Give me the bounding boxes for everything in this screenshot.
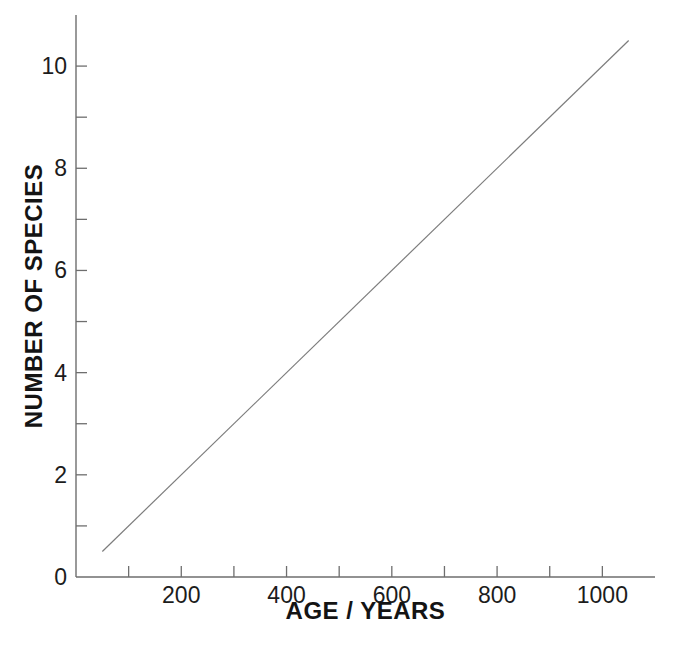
- y-tick-label-4: 4: [54, 360, 67, 386]
- y-tick-label-8: 8: [54, 155, 67, 181]
- y-tick-label-2: 2: [54, 462, 67, 488]
- y-tick-label-0: 0: [54, 564, 67, 590]
- chart-figure: 20040060080010002468100 AGE / YEARS NUMB…: [0, 0, 675, 653]
- x-axis-title: AGE / YEARS: [76, 597, 655, 625]
- y-tick-label-10: 10: [41, 53, 67, 79]
- chart-canvas: 20040060080010002468100: [0, 0, 675, 653]
- species-vs-age-line: [102, 41, 628, 552]
- y-tick-label-6: 6: [54, 257, 67, 283]
- y-axis-title: NUMBER OF SPECIES: [20, 164, 48, 429]
